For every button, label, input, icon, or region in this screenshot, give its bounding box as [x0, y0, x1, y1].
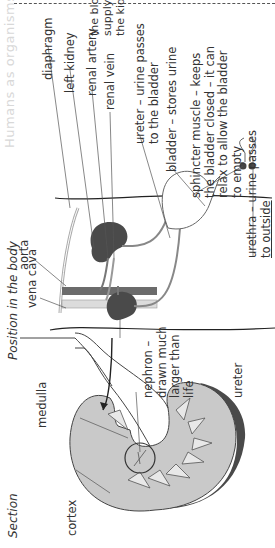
label-section-ureter: ureter: [232, 363, 246, 398]
label-cortex-wrap: cortex: [66, 500, 80, 536]
label-nephron: nephron – drawn much larger than life: [142, 326, 196, 398]
kidney-section: [20, 312, 245, 511]
label-renal-artery: renal artery: [86, 28, 100, 96]
label-medulla-text: medulla: [36, 382, 50, 428]
label-bladder: bladder – stores urine: [166, 47, 180, 172]
label-diaphragm: diaphragm: [42, 18, 56, 80]
label-renal-vein: renal vein: [104, 53, 118, 110]
label-urethra: urethra – urine passes to outside: [246, 130, 273, 258]
label-cortex: cortex: [65, 500, 79, 536]
label-ureter: ureter – urine passes to the bladder: [134, 23, 161, 144]
label-aorta: aorta: [18, 240, 32, 270]
label-blood-supply-text: the blood supply to the kidneys: [88, 0, 127, 36]
label-left-kidney: left kidney: [64, 32, 78, 93]
label-sphincter: sphincter muscle – keeps the bladder clo…: [190, 46, 244, 198]
rotated-page: Humans as organisms Section Position in …: [0, 0, 275, 548]
